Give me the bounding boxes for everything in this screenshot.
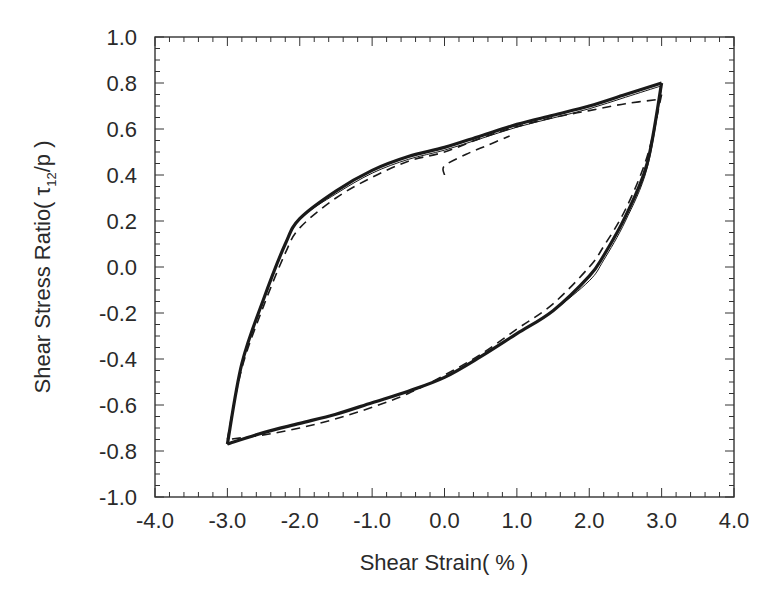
y-tick-label: 0.0 [106, 255, 137, 280]
x-axis-title: Shear Strain( % ) [360, 550, 529, 575]
x-tick-label: 4.0 [719, 508, 750, 533]
x-axis-tick-labels: -4.0-3.0-2.0-1.00.01.02.03.04.0 [136, 508, 749, 533]
y-tick-label: -0.6 [99, 393, 137, 418]
x-tick-label: -1.0 [353, 508, 391, 533]
y-tick-label: -0.4 [99, 347, 137, 372]
axis-ticks [155, 37, 734, 497]
y-tick-label: 0.6 [106, 117, 137, 142]
y-tick-label: -1.0 [99, 485, 137, 510]
x-tick-label: -3.0 [208, 508, 246, 533]
hysteresis-chart: -4.0-3.0-2.0-1.00.01.02.03.04.0 1.00.80.… [0, 0, 776, 600]
data-series [227, 83, 661, 444]
x-tick-label: 1.0 [502, 508, 533, 533]
y-tick-label: -0.2 [99, 301, 137, 326]
solid-upper-branch [227, 83, 661, 444]
y-axis-title: Shear Stress Ratio( τ12/p ) [30, 140, 59, 393]
y-tick-label: 0.2 [106, 209, 137, 234]
y-axis-title-prefix: Shear Stress Ratio( [30, 195, 55, 393]
y-tick-label: -0.8 [99, 439, 137, 464]
y-axis-title-symbol: τ [30, 186, 55, 195]
y-tick-label: 0.4 [106, 163, 137, 188]
x-tick-label: -2.0 [281, 508, 319, 533]
y-tick-label: 0.8 [106, 71, 137, 96]
x-tick-label: 3.0 [646, 508, 677, 533]
x-tick-label: -4.0 [136, 508, 174, 533]
y-axis-title-suffix: /p ) [30, 140, 55, 172]
x-tick-label: 2.0 [574, 508, 605, 533]
dashed-initial-loading [443, 136, 510, 175]
y-tick-label: 1.0 [106, 25, 137, 50]
y-axis-title-subscript: 12 [44, 172, 59, 186]
x-tick-label: 0.0 [429, 508, 460, 533]
solid-lower-branch [227, 83, 661, 444]
plot-frame-rect [155, 37, 734, 497]
plot-frame [155, 37, 734, 497]
y-axis-tick-labels: 1.00.80.60.40.20.0-0.2-0.4-0.6-0.8-1.0 [99, 25, 137, 510]
